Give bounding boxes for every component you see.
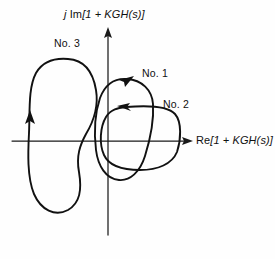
nyquist-figure: j Im[1 + KGH(s)] Re[1 + KGH(s)] No. 3 No… bbox=[0, 0, 275, 259]
y-axis-label-operator: Im bbox=[70, 8, 82, 20]
y-axis-label-expression: [1 + KGH(s)] bbox=[82, 8, 145, 20]
curve-label-no-1: No. 1 bbox=[142, 68, 168, 79]
contour-no-2 bbox=[101, 103, 180, 170]
x-axis-label-expression: [1 + KGH(s)] bbox=[210, 134, 273, 146]
x-axis bbox=[12, 137, 193, 145]
curve-label-no-2: No. 2 bbox=[163, 99, 189, 110]
x-axis-label: Re[1 + KGH(s)] bbox=[196, 135, 273, 146]
y-axis bbox=[104, 27, 112, 235]
plot-canvas bbox=[0, 0, 275, 259]
curve-label-no-3: No. 3 bbox=[54, 38, 80, 49]
contour-no-3-path bbox=[28, 59, 96, 213]
contour-no-1-direction-arrow-icon bbox=[119, 76, 134, 87]
contour-no-2-path bbox=[101, 106, 180, 170]
y-axis-label: j Im[1 + KGH(s)] bbox=[64, 9, 145, 20]
contour-no-1 bbox=[95, 76, 153, 180]
x-axis-label-operator: Re bbox=[196, 134, 210, 146]
contour-no-1-path bbox=[95, 79, 153, 180]
contour-no-3 bbox=[25, 59, 97, 213]
